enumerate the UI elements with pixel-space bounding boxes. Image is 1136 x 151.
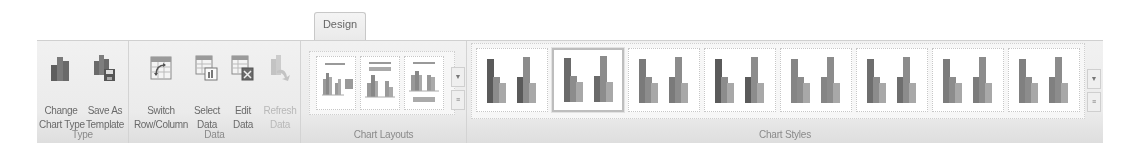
style-thumbnail-bar — [529, 83, 536, 103]
style-thumbnail-bar — [757, 83, 764, 103]
style-thumbnail-bar — [879, 83, 886, 103]
column-chart-icon — [48, 53, 74, 83]
chart-layout-2[interactable] — [360, 56, 400, 110]
chart-styles-gallery — [471, 43, 1085, 119]
select-data-icon — [194, 53, 220, 83]
style-thumbnail-bar — [803, 83, 810, 103]
chart-style-1[interactable] — [476, 48, 548, 112]
chart-style-6[interactable] — [856, 48, 928, 112]
style-thumbnail-bar — [1031, 83, 1038, 103]
layout-2-thumbnail — [361, 57, 399, 109]
chart-layout-1[interactable] — [316, 56, 356, 110]
group-chart-layouts: ▼ ≡ Chart Layouts — [301, 41, 467, 143]
style-thumbnail-bar — [651, 83, 658, 103]
refresh-data-button[interactable]: RefreshData — [261, 41, 299, 129]
group-label-chart-layouts: Chart Layouts — [301, 129, 466, 140]
layouts-scroll-down-button[interactable]: ▼ — [451, 67, 465, 87]
save-as-template-button[interactable]: Save AsTemplate — [83, 41, 127, 129]
chart-layouts-scroll: ▼ ≡ — [451, 67, 465, 113]
switch-row-column-button[interactable]: SwitchRow/Column — [133, 41, 189, 129]
style-thumbnail-bar — [1061, 83, 1068, 103]
styles-more-button[interactable]: ≡ — [1087, 92, 1101, 112]
edit-data-icon — [230, 53, 256, 83]
change-chart-type-button[interactable]: ChangeChart Type — [39, 41, 83, 129]
chart-layouts-gallery — [309, 51, 455, 115]
style-thumbnail-bar — [833, 83, 840, 103]
group-label-type: Type — [37, 129, 128, 140]
style-thumbnail-bar — [576, 82, 583, 102]
style-thumbnail-bar — [985, 83, 992, 103]
chart-style-8[interactable] — [1008, 48, 1080, 112]
chart-layout-3[interactable] — [404, 56, 444, 110]
chart-style-4[interactable] — [704, 48, 776, 112]
save-template-icon — [92, 53, 118, 83]
select-data-button[interactable]: SelectData — [189, 41, 225, 129]
style-thumbnail-bar — [606, 82, 613, 102]
tab-design[interactable]: Design — [314, 12, 366, 42]
edit-data-button[interactable]: EditData — [225, 41, 261, 129]
chart-style-7[interactable] — [932, 48, 1004, 112]
group-type: ChangeChart Type Save AsTemplate Type — [37, 41, 129, 143]
chart-design-ribbon: ChangeChart Type Save AsTemplate Type — [37, 40, 1103, 143]
style-thumbnail-bar — [955, 83, 962, 103]
layout-3-thumbnail — [405, 57, 443, 109]
styles-scroll-down-button[interactable]: ▼ — [1087, 69, 1101, 89]
chart-style-5[interactable] — [780, 48, 852, 112]
chart-style-2[interactable] — [552, 48, 624, 112]
style-thumbnail-bar — [681, 83, 688, 103]
group-label-data: Data — [129, 129, 300, 140]
group-data: SwitchRow/Column SelectData Edit — [129, 41, 301, 143]
switch-row-column-icon — [148, 53, 174, 83]
group-chart-styles: ▼ ≡ Chart Styles — [467, 41, 1103, 143]
style-thumbnail-bar — [909, 83, 916, 103]
refresh-data-icon — [267, 53, 293, 83]
style-thumbnail-bar — [499, 83, 506, 103]
style-thumbnail-bar — [727, 83, 734, 103]
chart-style-3[interactable] — [628, 48, 700, 112]
chart-styles-scroll: ▼ ≡ — [1087, 69, 1101, 115]
layout-1-thumbnail — [317, 57, 355, 109]
layouts-more-button[interactable]: ≡ — [451, 90, 465, 110]
group-label-chart-styles: Chart Styles — [467, 129, 1103, 140]
